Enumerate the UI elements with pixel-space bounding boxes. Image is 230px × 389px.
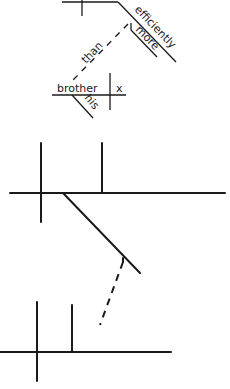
middle-modifier-line: [63, 193, 140, 273]
top-fragment: efficiently more than brother x his: [52, 0, 179, 118]
word-than: than: [79, 39, 106, 66]
bottom-fragment: [0, 302, 171, 381]
sentence-diagram: efficiently more than brother x his: [0, 0, 230, 389]
word-x: x: [116, 82, 123, 95]
middle-fragment: [10, 143, 225, 325]
middle-dashed-line: [100, 262, 123, 325]
